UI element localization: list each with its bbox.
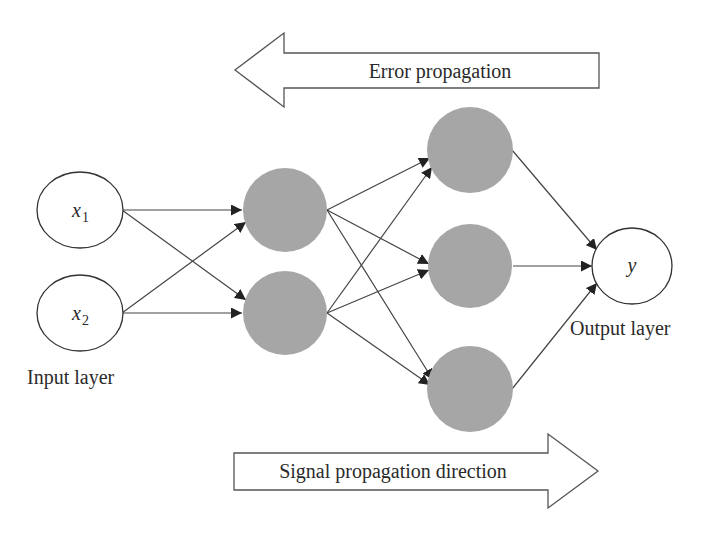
edges-hidden2-to-output: [512, 150, 597, 389]
edges-hidden1-to-hidden2: [327, 158, 433, 385]
edge: [122, 210, 246, 300]
hidden2-node-2: [428, 224, 512, 308]
output-layer: y Output layer: [570, 228, 672, 340]
edge: [327, 313, 430, 385]
hidden2-node-3: [427, 346, 513, 432]
signal-propagation-label: Signal propagation direction: [279, 460, 507, 483]
edge: [512, 150, 597, 250]
output-layer-label: Output layer: [570, 317, 671, 340]
hidden2-node-1: [427, 107, 513, 193]
error-propagation-label: Error propagation: [369, 60, 512, 83]
hidden-layer-1: [243, 168, 327, 355]
signal-propagation-arrow: Signal propagation direction: [234, 434, 598, 508]
edges-input-to-hidden1: [122, 210, 246, 313]
edge: [327, 210, 433, 380]
edge: [327, 210, 429, 264]
input-layer-label: Input layer: [27, 366, 115, 389]
hidden-layer-2: [427, 107, 513, 432]
neural-network-diagram: Error propagation Signal propagation dir…: [0, 0, 717, 535]
input-layer: x1 x2 Input layer: [27, 172, 123, 389]
hidden1-node-2: [243, 271, 327, 355]
output-node-y-label: y: [626, 254, 637, 277]
edge: [122, 222, 246, 313]
hidden1-node-1: [243, 168, 327, 252]
error-propagation-arrow: Error propagation: [235, 33, 599, 107]
edge: [327, 158, 430, 210]
